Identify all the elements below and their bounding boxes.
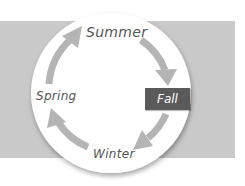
stage-label-winter: Winter <box>93 148 135 160</box>
stage-label-summer: Summer <box>86 25 147 39</box>
stage-label-fall: Fall <box>157 92 178 106</box>
stage-label-spring: Spring <box>36 90 77 102</box>
stage-highlight-fall: Fall <box>145 88 190 110</box>
